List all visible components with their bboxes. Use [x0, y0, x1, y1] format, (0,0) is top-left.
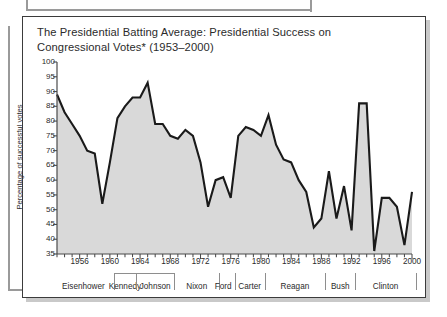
y-tick-label: 65: [33, 160, 55, 169]
president-divider: [355, 273, 356, 290]
president-bracket: [114, 273, 138, 279]
y-tick-label: 45: [33, 219, 55, 228]
page-edge-line-top: [26, 9, 310, 11]
president-bracket: [136, 273, 175, 279]
x-tick-label: 1984: [282, 257, 300, 266]
y-axis-title: Percentage of successful votes: [15, 0, 24, 61]
president-label: Carter: [238, 282, 261, 291]
president-divider: [265, 273, 266, 290]
page-edge-line-left: [8, 26, 10, 291]
president-label: Ford: [215, 282, 232, 291]
president-label: Clinton: [373, 282, 399, 291]
x-tick-label: 1980: [252, 257, 270, 266]
x-tick-label: 1956: [71, 257, 89, 266]
x-tick-label: 1964: [131, 257, 149, 266]
x-tick-label: 1968: [161, 257, 179, 266]
president-label: Eisenhower: [62, 282, 105, 291]
president-label: Nixon: [186, 282, 207, 291]
president-divider: [325, 273, 326, 290]
president-band-axis: EisenhowerKennedyJohnsonNixonFordCarterR…: [57, 273, 417, 299]
y-tick-label: 55: [33, 189, 55, 198]
chart-title: The Presidential Batting Average: Presid…: [37, 25, 367, 55]
y-tick-label: 50: [33, 204, 55, 213]
president-label: Bush: [331, 282, 350, 291]
y-tick-label: 75: [33, 130, 55, 139]
y-tick-label: 40: [33, 234, 55, 243]
x-tick-label: 1996: [373, 257, 391, 266]
y-tick-label: 70: [33, 145, 55, 154]
x-tick-label: 1972: [191, 257, 209, 266]
figure-frame: The Presidential Batting Average: Presid…: [22, 16, 426, 298]
president-divider: [416, 273, 417, 290]
x-tick-label: 1960: [101, 257, 119, 266]
plot-area: [57, 61, 412, 253]
x-tick-label: 1976: [222, 257, 240, 266]
president-divider: [235, 273, 236, 290]
y-tick-label: 80: [33, 116, 55, 125]
x-axis-tick-labels: 1956196019641968197219761980198419881992…: [57, 257, 417, 271]
area-chart-svg: [57, 61, 412, 261]
y-tick-label: 95: [33, 71, 55, 80]
x-tick-label: 2000: [403, 257, 421, 266]
y-axis-tick-labels: 10095908580757065605550454035: [29, 61, 55, 253]
page-edge-line-top-left: [26, 0, 28, 11]
president-label: Johnson: [140, 282, 171, 291]
y-tick-label: 85: [33, 101, 55, 110]
x-tick-label: 1992: [342, 257, 360, 266]
y-tick-label: 90: [33, 86, 55, 95]
y-tick-label: 100: [33, 57, 55, 66]
x-tick-label: 1988: [312, 257, 330, 266]
y-tick-label: 35: [33, 249, 55, 258]
page-edge-tick: [310, 0, 312, 12]
president-label: Reagan: [281, 282, 310, 291]
y-axis-title-text: Percentage of successful votes: [15, 61, 24, 253]
y-tick-label: 60: [33, 175, 55, 184]
